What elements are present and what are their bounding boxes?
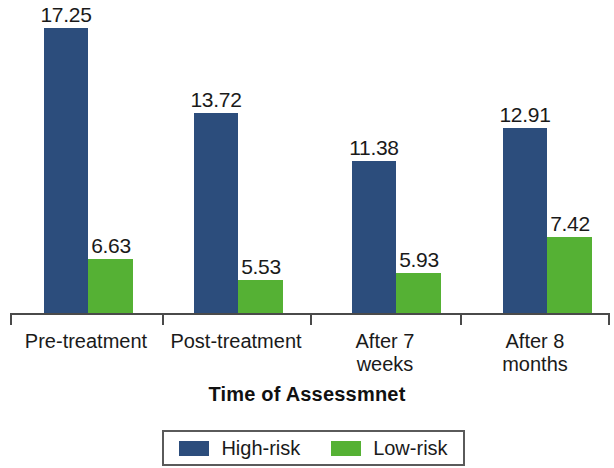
x-axis-label-pre-treatment: Pre-treatment <box>10 330 162 353</box>
legend-entry-high-risk: High-risk <box>179 437 300 460</box>
bar-value-low-risk-pre-treatment: 6.63 <box>71 234 151 258</box>
x-axis-tick-2 <box>310 313 312 325</box>
legend-swatch-high-risk-icon <box>179 441 209 456</box>
plot-area: 17.25 6.63 13.72 5.53 11.38 5.93 12.91 7… <box>0 0 614 313</box>
x-axis-label-post-treatment: Post-treatment <box>162 330 310 353</box>
bar-value-high-risk-after-8-months: 12.91 <box>485 103 565 127</box>
bar-high-risk-after-7-weeks <box>352 161 396 313</box>
bar-chart: 17.25 6.63 13.72 5.53 11.38 5.93 12.91 7… <box>0 0 614 468</box>
bar-low-risk-pre-treatment <box>88 259 133 313</box>
x-axis-label-after-7-weeks: After 7 weeks <box>310 330 460 376</box>
legend-label-high-risk: High-risk <box>221 437 300 460</box>
x-axis-tick-0 <box>10 313 12 325</box>
x-axis-tick-1 <box>162 313 164 325</box>
x-axis-title: Time of Assessmnet <box>0 383 614 406</box>
bar-value-low-risk-after-7-weeks: 5.93 <box>379 248 459 272</box>
x-axis-label-after-8-months: After 8 months <box>460 330 610 376</box>
bar-low-risk-after-8-months <box>547 237 592 313</box>
bar-high-risk-pre-treatment <box>44 28 88 313</box>
x-axis-tick-3 <box>460 313 462 325</box>
bar-value-high-risk-after-7-weeks: 11.38 <box>334 136 414 160</box>
bar-low-risk-after-7-weeks <box>396 273 441 313</box>
legend-entry-low-risk: Low-risk <box>331 437 447 460</box>
bar-value-low-risk-after-8-months: 7.42 <box>530 212 610 236</box>
bar-high-risk-post-treatment <box>194 113 238 313</box>
bar-value-low-risk-post-treatment: 5.53 <box>221 255 301 279</box>
legend: High-risk Low-risk <box>162 430 465 466</box>
legend-label-low-risk: Low-risk <box>373 437 447 460</box>
bar-low-risk-post-treatment <box>238 280 283 313</box>
legend-swatch-low-risk-icon <box>331 441 361 456</box>
x-axis-tick-4 <box>608 313 610 325</box>
bar-value-high-risk-pre-treatment: 17.25 <box>26 3 106 27</box>
bar-value-high-risk-post-treatment: 13.72 <box>176 88 256 112</box>
